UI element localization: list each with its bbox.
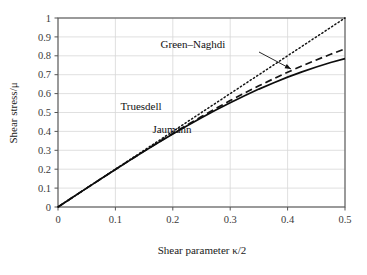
curve-jaumann [58,59,345,207]
curve-label-jaumann: Jaumann [152,123,192,135]
x-axis-tick-label: 0.2 [166,214,179,225]
shear-stress-chart-figure: 00.10.20.30.40.50.60.70.80.9100.10.20.30… [0,0,367,275]
x-axis-tick-label: 0.5 [338,214,351,225]
y-axis-tick-label: 0 [46,202,51,213]
x-axis-tick-label: 0.1 [109,214,122,225]
y-axis-tick-label: 0.4 [38,126,52,137]
x-axis-title: Shear parameter κ/2 [158,244,247,256]
y-axis-tick-label: 0.9 [38,32,51,43]
y-axis-title: Shear stress/μ [7,82,19,143]
y-axis-tick-label: 0.8 [38,50,51,61]
x-axis-tick-label: 0.3 [224,214,237,225]
y-axis-tick-label: 0.2 [38,164,51,175]
y-axis-tick-label: 0.7 [38,69,51,80]
y-axis-tick-label: 0.3 [38,145,51,156]
x-axis-tick-label: 0 [55,214,60,225]
y-axis-tick-label: 1 [46,13,51,24]
x-axis-tick-label: 0.4 [281,214,295,225]
y-axis-tick-label: 0.6 [38,88,51,99]
y-axis-tick-label: 0.5 [38,107,51,118]
curve-label-green-naghdi: Green–Naghdi [161,38,226,50]
y-axis-tick-label: 0.1 [38,183,51,194]
curve-label-truesdell: Truesdell [120,100,161,112]
chart-canvas: 00.10.20.30.40.50.60.70.80.9100.10.20.30… [0,0,367,275]
